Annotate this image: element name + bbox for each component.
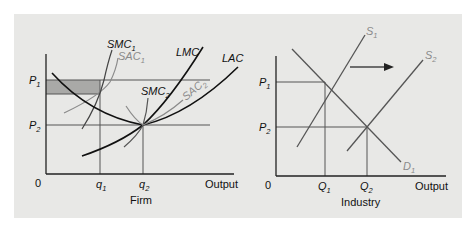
economics-diagram: SMC1 SAC1 LMC LAC SMC2 SAC2 P1 P2 0 q1 q… bbox=[0, 0, 475, 233]
firm-origin-label: 0 bbox=[35, 177, 41, 189]
industry-caption: Industry bbox=[341, 196, 381, 208]
industry-p2-label: P2 bbox=[259, 121, 271, 136]
s1-curve bbox=[297, 35, 365, 147]
s2-curve bbox=[347, 60, 423, 151]
industry-p1-label: P1 bbox=[259, 76, 271, 91]
firm-q1-label: q1 bbox=[96, 178, 106, 193]
firm-p1-label: P1 bbox=[29, 74, 41, 89]
industry-q2-label: Q2 bbox=[360, 180, 374, 195]
firm-p2-label: P2 bbox=[29, 119, 41, 134]
s2-label: S2 bbox=[425, 49, 437, 64]
smc2-curve bbox=[124, 98, 148, 147]
smc2-label: SMC2 bbox=[141, 85, 170, 100]
firm-q2-label: q2 bbox=[139, 178, 150, 193]
industry-q1-label: Q1 bbox=[318, 180, 331, 195]
firm-x-axis-label: Output bbox=[205, 178, 238, 190]
lac-label: LAC bbox=[222, 52, 243, 64]
industry-origin-label: 0 bbox=[265, 179, 271, 191]
d1-label: D1 bbox=[403, 160, 415, 175]
industry-graph: S1 S2 D1 P1 P2 0 Q1 Q2 Output Industry bbox=[259, 25, 448, 208]
firm-caption: Firm bbox=[130, 194, 152, 206]
sac1-label: SAC1 bbox=[118, 50, 145, 65]
right-arrow-icon bbox=[350, 63, 394, 71]
industry-x-axis-label: Output bbox=[415, 180, 448, 192]
lmc-label: LMC bbox=[176, 46, 199, 58]
firm-graph: SMC1 SAC1 LMC LAC SMC2 SAC2 P1 P2 0 q1 q… bbox=[29, 38, 243, 206]
s1-label: S1 bbox=[366, 25, 378, 40]
